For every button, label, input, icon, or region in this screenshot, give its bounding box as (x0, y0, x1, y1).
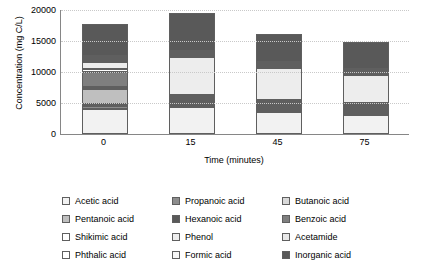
legend-label: Acetamide (295, 232, 338, 242)
grid-line (61, 72, 409, 73)
legend-swatch (282, 197, 290, 205)
legend-swatch (172, 197, 180, 205)
legend-swatch (62, 197, 70, 205)
bar-segment (82, 109, 128, 134)
bar-segment (343, 115, 389, 134)
x-tick-label: 45 (234, 137, 321, 147)
legend-label: Shikimic acid (75, 232, 128, 242)
stacked-bar[interactable] (256, 34, 302, 134)
legend-label: Benzoic acid (295, 214, 346, 224)
bar-segment (169, 57, 215, 95)
y-tick-label: 0 (51, 129, 56, 139)
plot-wrapper: Concentration (mg C/L) 05000100001500020… (0, 0, 441, 175)
legend-label: Phenol (185, 232, 213, 242)
legend-label: Pentanoic acid (75, 214, 134, 224)
bar-segment (82, 62, 128, 69)
legend-swatch (62, 251, 70, 259)
legend-item[interactable]: Phenol (172, 228, 282, 246)
legend-item[interactable]: Inorganic acid (282, 246, 392, 264)
legend-item[interactable]: Acetamide (282, 228, 392, 246)
y-tick-label: 5000 (36, 98, 56, 108)
legend-label: Hexanoic acid (185, 214, 242, 224)
grid-line (61, 41, 409, 42)
x-tick-label: 75 (321, 137, 408, 147)
plot-area (60, 10, 409, 135)
legend-label: Inorganic acid (295, 250, 351, 260)
legend-swatch (172, 251, 180, 259)
bar-segment (169, 13, 215, 51)
bar-segment (82, 72, 128, 86)
legend-label: Phthalic acid (75, 250, 126, 260)
bar-segment (343, 42, 389, 70)
x-tick-label: 15 (147, 137, 234, 147)
bar-segment (256, 34, 302, 62)
grid-line (61, 10, 409, 11)
y-axis-ticks: 05000100001500020000 (22, 10, 56, 134)
legend: Acetic acidPropanoic acidButanoic acidPe… (62, 192, 392, 264)
legend-label: Acetic acid (75, 196, 119, 206)
y-tick-label: 10000 (31, 67, 56, 77)
legend-label: Formic acid (185, 250, 232, 260)
legend-item[interactable]: Acetic acid (62, 192, 172, 210)
legend-swatch (172, 215, 180, 223)
y-tick-label: 15000 (31, 36, 56, 46)
bar-segment (82, 24, 128, 56)
legend-label: Butanoic acid (295, 196, 349, 206)
legend-item[interactable]: Hexanoic acid (172, 210, 282, 228)
bar-segment (82, 89, 128, 105)
legend-swatch (62, 215, 70, 223)
legend-swatch (282, 215, 290, 223)
stacked-bar-chart: Concentration (mg C/L) 05000100001500020… (0, 0, 441, 265)
legend-item[interactable]: Phthalic acid (62, 246, 172, 264)
bar-segment (169, 107, 215, 134)
bar-segment (343, 75, 389, 103)
legend-swatch (282, 233, 290, 241)
legend-label: Propanoic acid (185, 196, 245, 206)
legend-swatch (172, 233, 180, 241)
x-tick-label: 0 (60, 137, 147, 147)
stacked-bar[interactable] (169, 13, 215, 134)
x-axis-ticks: 0154575 (60, 137, 408, 147)
legend-swatch (282, 251, 290, 259)
grid-line (61, 103, 409, 104)
legend-item[interactable]: Shikimic acid (62, 228, 172, 246)
legend-item[interactable]: Formic acid (172, 246, 282, 264)
stacked-bar[interactable] (343, 42, 389, 134)
legend-swatch (62, 233, 70, 241)
legend-item[interactable]: Propanoic acid (172, 192, 282, 210)
legend-item[interactable]: Benzoic acid (282, 210, 392, 228)
legend-item[interactable]: Butanoic acid (282, 192, 392, 210)
y-tick-label: 20000 (31, 5, 56, 15)
legend-item[interactable]: Pentanoic acid (62, 210, 172, 228)
bar-segment (256, 112, 302, 134)
x-axis-title: Time (minutes) (60, 155, 408, 165)
